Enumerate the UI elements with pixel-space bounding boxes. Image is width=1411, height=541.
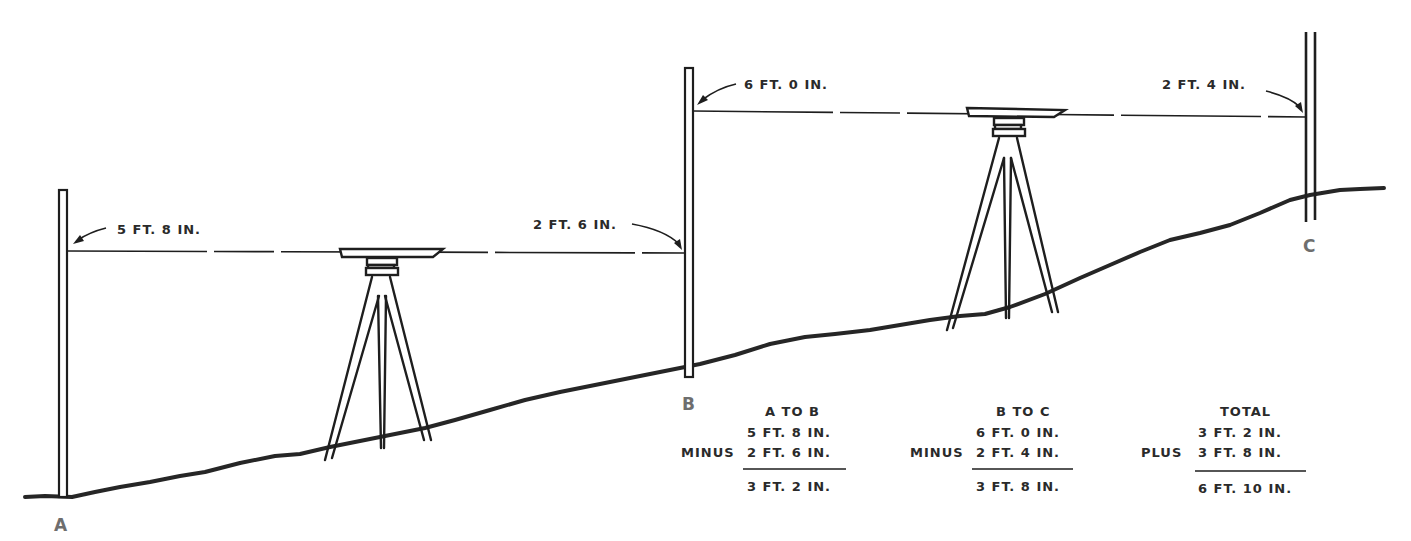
calc-result: 3 FT. 8 IN. [976,479,1060,494]
calc-heading: B TO C [996,404,1050,419]
reading-b-backsight-label: 6 FT. 0 IN. [744,77,828,92]
point-label-b: B [682,394,695,414]
calc-total: TOTAL 3 FT. 2 IN. PLUS 3 FT. 8 IN. 6 FT.… [1141,404,1306,496]
calc-line2: 2 FT. 4 IN. [976,445,1060,460]
calc-line1: 5 FT. 8 IN. [747,425,831,440]
reading-b-backsight: 6 FT. 0 IN. [697,77,828,105]
leveling-rod-a [59,190,67,497]
calc-heading: TOTAL [1220,404,1271,419]
calc-line2: 3 FT. 8 IN. [1198,445,1282,460]
calc-heading: A TO B [765,404,820,419]
calc-operator: MINUS [681,445,735,460]
calc-operator: MINUS [910,445,964,460]
calc-operator: PLUS [1141,445,1182,460]
level-instrument-2 [947,108,1065,330]
reading-c-foresight: 2 FT. 4 IN. [1162,77,1303,113]
reading-b-foresight: 2 FT. 6 IN. [533,217,682,250]
calc-line1: 6 FT. 0 IN. [976,425,1060,440]
reading-a-backsight-label: 5 FT. 8 IN. [117,222,201,237]
leveling-rod-b [685,68,693,377]
reading-a-backsight: 5 FT. 8 IN. [73,222,201,244]
calc-line1: 3 FT. 2 IN. [1198,425,1282,440]
calc-line2: 2 FT. 6 IN. [747,445,831,460]
point-label-c: C [1303,236,1315,256]
reading-c-foresight-label: 2 FT. 4 IN. [1162,77,1246,92]
calc-result: 6 FT. 10 IN. [1198,481,1292,496]
leveling-diagram: 5 FT. 8 IN. 2 FT. 6 IN. 6 FT. 0 IN. 2 FT… [0,0,1411,541]
point-label-a: A [54,515,68,535]
calc-result: 3 FT. 2 IN. [747,479,831,494]
calc-a-to-b: A TO B 5 FT. 8 IN. MINUS 2 FT. 6 IN. 3 F… [681,404,846,494]
reading-b-foresight-label: 2 FT. 6 IN. [533,217,617,232]
calc-b-to-c: B TO C 6 FT. 0 IN. MINUS 2 FT. 4 IN. 3 F… [910,404,1073,494]
